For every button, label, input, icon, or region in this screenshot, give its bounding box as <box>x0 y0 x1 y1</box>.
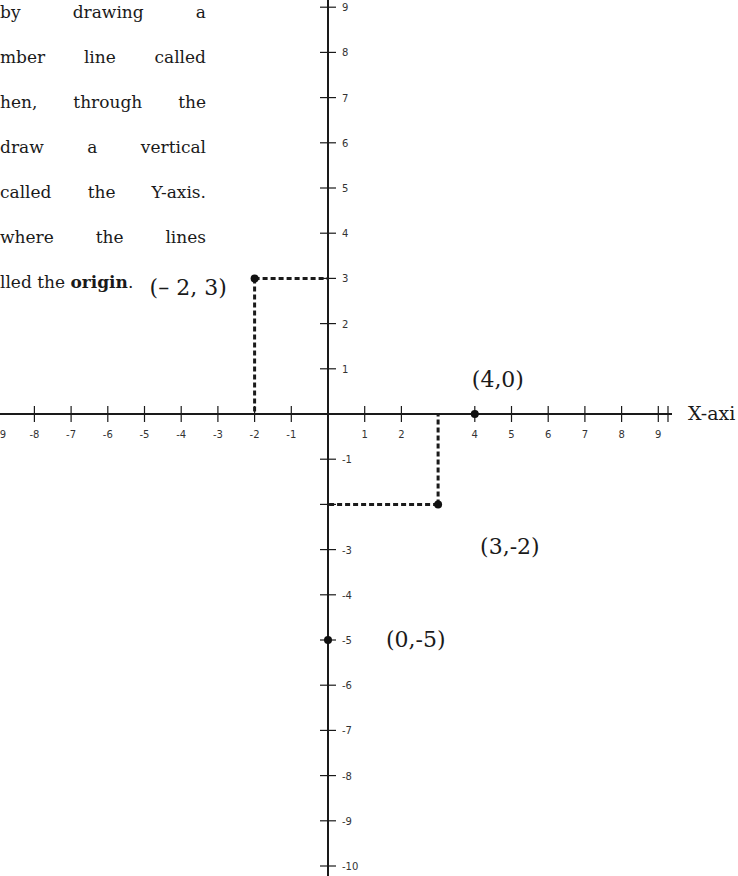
y-tick-label: -3 <box>342 545 352 556</box>
x-tick-label: 7 <box>582 429 588 440</box>
y-tick-label: 1 <box>342 364 348 375</box>
axis-ticks: 9-8-7-6-5-4-3-2-112456789987654321-1-3-4… <box>0 2 668 872</box>
x-tick-label: 8 <box>618 429 624 440</box>
x-tick-label: 5 <box>508 429 514 440</box>
x-tick-label: -7 <box>66 429 76 440</box>
y-tick-label: -7 <box>342 725 352 736</box>
x-tick-label: -8 <box>29 429 39 440</box>
y-tick-label: 2 <box>342 319 348 330</box>
x-axis-label: X-axi <box>688 402 735 424</box>
x-tick-label: 6 <box>545 429 551 440</box>
x-tick-label: 4 <box>472 429 478 440</box>
x-tick-label: 9 <box>0 429 6 440</box>
y-tick-label: -10 <box>342 861 358 872</box>
y-tick-label: -8 <box>342 771 352 782</box>
y-tick-label: -6 <box>342 680 352 691</box>
data-point <box>251 274 259 282</box>
coordinate-plane: 9-8-7-6-5-4-3-2-112456789987654321-1-3-4… <box>0 0 738 876</box>
x-tick-label: -2 <box>250 429 260 440</box>
y-tick-label: -9 <box>342 816 352 827</box>
y-tick-label: -4 <box>342 590 352 601</box>
x-tick-label: -6 <box>103 429 113 440</box>
data-point <box>324 636 332 644</box>
x-tick-label: -5 <box>140 429 150 440</box>
point-label: (– 2, 3) <box>150 275 227 300</box>
y-tick-label: -5 <box>342 635 352 646</box>
axes <box>0 0 672 876</box>
point-label: (0,-5) <box>386 627 446 652</box>
x-tick-label: 2 <box>398 429 404 440</box>
dashed-guides <box>255 278 439 504</box>
x-tick-label: -4 <box>176 429 186 440</box>
point-label: (3,-2) <box>480 534 540 559</box>
y-tick-label: 6 <box>342 138 348 149</box>
y-tick-label: 4 <box>342 228 348 239</box>
y-tick-label: 7 <box>342 93 348 104</box>
point-label: (4,0) <box>472 367 524 392</box>
x-tick-label: 1 <box>362 429 368 440</box>
y-tick-label: 8 <box>342 47 348 58</box>
data-point <box>471 410 479 418</box>
x-tick-label: 9 <box>655 429 661 440</box>
y-tick-label: 5 <box>342 183 348 194</box>
x-tick-label: -1 <box>286 429 296 440</box>
y-tick-label: -1 <box>342 454 352 465</box>
x-tick-label: -3 <box>213 429 223 440</box>
y-tick-label: 9 <box>342 2 348 13</box>
data-point <box>434 500 442 508</box>
y-tick-label: 3 <box>342 273 348 284</box>
